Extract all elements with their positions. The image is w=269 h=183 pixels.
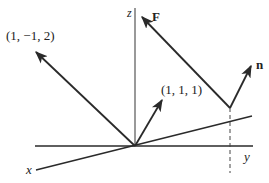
vector-label-F: F xyxy=(152,9,160,24)
vector-label-n: n xyxy=(256,57,264,72)
x-axis-label: x xyxy=(25,162,32,177)
vector-1-neg1-2 xyxy=(36,52,135,146)
vector-label-1-1-1: (1, 1, 1) xyxy=(161,82,202,97)
vector-label-1-neg1-2: (1, −1, 2) xyxy=(6,28,55,43)
x-axis xyxy=(36,116,252,170)
z-axis-label: z xyxy=(126,6,132,20)
vector-n xyxy=(230,66,251,108)
vector-diagram: (1, −1, 2) (1, 1, 1) F n z y x xyxy=(0,0,269,183)
y-axis-label: y xyxy=(242,149,250,164)
